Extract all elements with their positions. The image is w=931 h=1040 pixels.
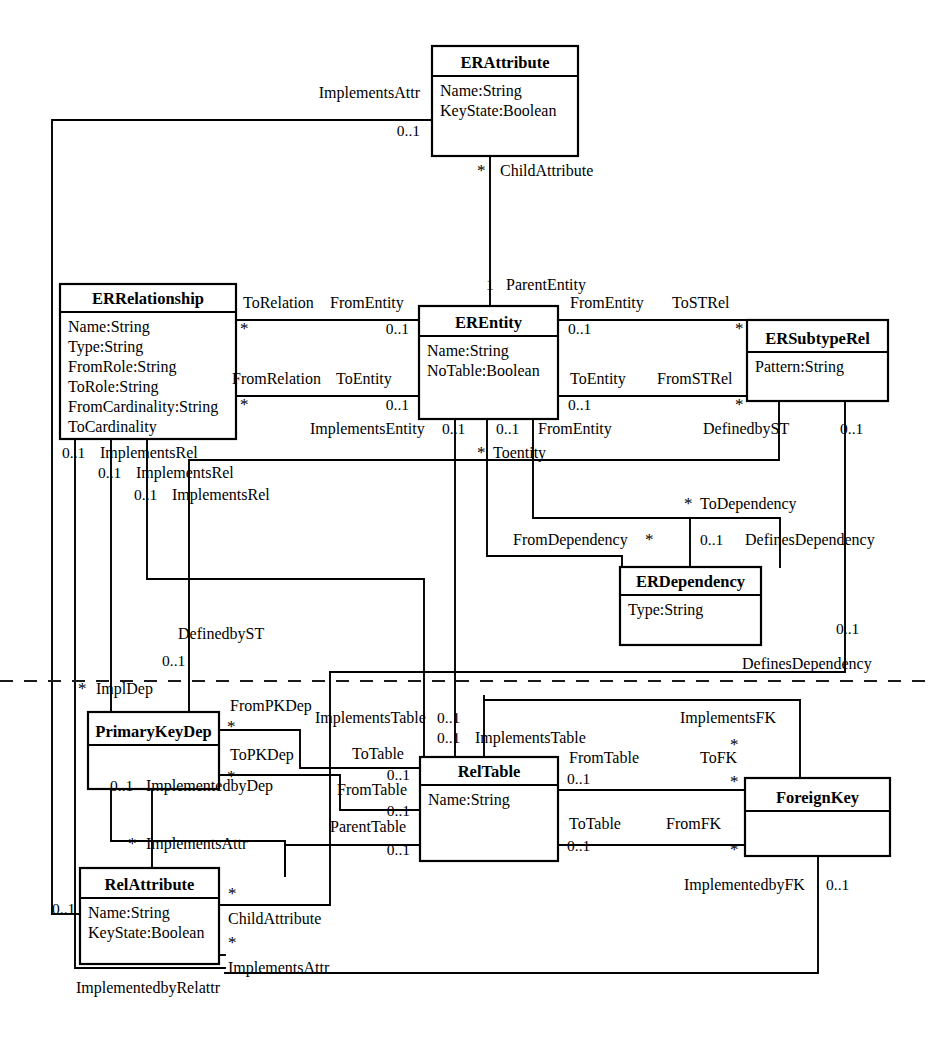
multiplicity-label-m-fromfk-star: * xyxy=(730,840,739,859)
role-label-fromrelation: FromRelation xyxy=(232,370,321,387)
role-label-fromentity-left: FromEntity xyxy=(330,294,404,312)
multiplicity-label-m-implementsattr-bot: * xyxy=(228,933,237,952)
multiplicity-label-m-topkdep-star: * xyxy=(227,767,236,786)
role-label-implementedbyfk: ImplementedbyFK xyxy=(684,876,805,894)
multiplicity-label-m-implementstable-2: 0..1 xyxy=(437,729,460,746)
role-label-implementsrel-3: ImplementsRel xyxy=(172,486,270,504)
class-attribute-label: Name:String xyxy=(428,791,510,809)
class-box-erattribute[interactable]: ERAttributeName:StringKeyState:Boolean xyxy=(432,46,578,156)
role-label-implementstable-2: ImplementsTable xyxy=(475,729,586,747)
class-attribute-label: KeyState:Boolean xyxy=(88,924,204,942)
multiplicity-label-m-childattr-bot-star: * xyxy=(228,884,237,903)
diagram-canvas: ERAttributeName:StringKeyState:BooleanER… xyxy=(0,0,931,1040)
multiplicity-label-m-definedbyst-left: 0..1 xyxy=(162,652,185,669)
multiplicity-label-m-parenttable: 0..1 xyxy=(387,841,410,858)
multiplicity-label-m-frompkdep-star: * xyxy=(227,717,236,736)
multiplicity-label-m-fromstrel-star: * xyxy=(735,395,744,414)
role-label-childattribute-bot: ChildAttribute xyxy=(228,910,321,927)
role-label-todependency: ToDependency xyxy=(700,495,797,513)
class-attribute-label: Type:String xyxy=(68,338,143,356)
multiplicity-label-m-implementstable-1: 0..1 xyxy=(437,709,460,726)
multiplicity-label-m-childattr-top-star: * xyxy=(477,161,486,180)
role-label-fromentity-mid: FromEntity xyxy=(538,420,612,438)
role-label-definesdependency-bot: DefinesDependency xyxy=(742,655,872,673)
role-label-parententity: ParentEntity xyxy=(506,276,586,294)
role-label-fromtable-left: FromTable xyxy=(337,781,407,798)
class-attribute-label: Name:String xyxy=(427,342,509,360)
multiplicity-label-m-tofk-star: * xyxy=(730,772,739,791)
multiplicity-label-m-fromentity-mid: 0..1 xyxy=(496,420,519,437)
role-label-topkdep: ToPKDep xyxy=(230,746,294,764)
multiplicity-label-m-fromtable-right: 0..1 xyxy=(567,770,590,787)
role-label-totable-lower: ToTable xyxy=(569,815,621,832)
class-attribute-label: FromCardinality:String xyxy=(68,398,218,416)
uml-class-diagram: ERAttributeName:StringKeyState:BooleanER… xyxy=(0,0,931,1040)
role-label-toentity-lower: Toentity xyxy=(493,444,546,462)
role-label-fromfk: FromFK xyxy=(666,815,722,832)
role-label-implementedbydep: ImplementedbyDep xyxy=(146,777,273,795)
multiplicity-label-m-tostrel-star: * xyxy=(735,319,744,338)
role-label-implementsattr-top: ImplementsAttr xyxy=(319,84,421,102)
multiplicity-label-m-relattr-left: 0..1 xyxy=(52,900,75,917)
class-name-label: ERDependency xyxy=(636,572,746,591)
role-label-parenttable: ParentTable xyxy=(330,818,406,835)
role-label-implementsattr-mid: ImplementsAttr xyxy=(146,835,248,853)
role-label-fromtable-right: FromTable xyxy=(569,749,639,766)
class-attribute-label: NoTable:Boolean xyxy=(427,362,540,379)
role-label-fromdependency: FromDependency xyxy=(513,531,628,549)
role-label-childattribute-top: ChildAttribute xyxy=(500,162,593,179)
class-attribute-label: FromRole:String xyxy=(68,358,176,376)
role-label-frompkdep: FromPKDep xyxy=(230,697,312,715)
class-box-erdependency[interactable]: ERDependencyType:String xyxy=(620,567,761,645)
class-attribute-label: Name:String xyxy=(88,904,170,922)
class-box-erentity[interactable]: EREntityName:StringNoTable:Boolean xyxy=(419,306,558,419)
role-label-definedbyst-right: DefinedbyST xyxy=(703,420,789,438)
multiplicity-label-m-implementsrel-2: 0..1 xyxy=(98,464,121,481)
multiplicity-label-m-impldep-star: * xyxy=(78,679,87,698)
class-attribute-label: Pattern:String xyxy=(755,358,844,376)
role-label-implementsrel-1: ImplementsRel xyxy=(100,444,198,462)
multiplicity-label-m-implementsentity: 0..1 xyxy=(442,420,465,437)
multiplicity-label-m-fromentity-left: 0..1 xyxy=(386,320,409,337)
class-attribute-label: Name:String xyxy=(440,82,522,100)
role-label-implementsfk: ImplementsFK xyxy=(680,709,776,727)
multiplicity-label-m-fromrelation-star: * xyxy=(240,395,249,414)
multiplicity-label-m-implementsrel-3: 0..1 xyxy=(134,486,157,503)
class-name-label: RelTable xyxy=(458,762,521,781)
class-box-foreignkey[interactable]: ForeignKey xyxy=(745,778,890,856)
multiplicity-label-m-torelation-star: * xyxy=(240,319,249,338)
multiplicity-label-m-definesdep-mid: 0..1 xyxy=(700,531,723,548)
multiplicity-label-m-parententity: 1 xyxy=(486,276,494,293)
multiplicity-label-m-todependency-star: * xyxy=(684,494,693,513)
class-name-label: PrimaryKeyDep xyxy=(95,722,211,741)
class-attribute-label: ToCardinality xyxy=(68,418,157,436)
class-box-reltable[interactable]: RelTableName:String xyxy=(420,757,558,861)
multiplicity-label-m-fromdependency-star: * xyxy=(645,530,654,549)
role-label-definedbyst-left: DefinedbyST xyxy=(178,625,264,643)
class-box-relattribute[interactable]: RelAttributeName:StringKeyState:Boolean xyxy=(80,868,219,964)
role-label-implementedbyrelattr: ImplementedbyRelattr xyxy=(76,979,221,997)
association-line xyxy=(111,439,285,876)
multiplicity-label-m-fromentity-right: 0..1 xyxy=(568,320,591,337)
role-label-totable-upper: ToTable xyxy=(352,745,404,762)
class-box-ersubtyperel[interactable]: ERSubtypeRelPattern:String xyxy=(747,320,888,401)
class-name-label: ERRelationship xyxy=(92,289,204,308)
multiplicity-label-m-implementsattr-top: 0..1 xyxy=(397,122,420,139)
multiplicity-label-m-definedbyst-right: 0..1 xyxy=(840,420,863,437)
role-label-implementstable-1: ImplementsTable xyxy=(315,709,426,727)
multiplicity-label-m-fromtable-left: 0..1 xyxy=(387,802,410,819)
class-attribute-label: Name:String xyxy=(68,318,150,336)
multiplicity-label-m-toentity-left: 0..1 xyxy=(386,396,409,413)
role-label-impldep: ImplDep xyxy=(96,680,153,698)
role-label-fromentity-right: FromEntity xyxy=(570,294,644,312)
multiplicity-label-m-totable-upper: 0..1 xyxy=(387,766,410,783)
multiplicity-label-m-toentity-right: 0..1 xyxy=(568,396,591,413)
multiplicity-label-m-definesdep-right: 0..1 xyxy=(836,620,859,637)
role-label-implementsentity: ImplementsEntity xyxy=(310,420,425,438)
class-attribute-label: ToRole:String xyxy=(68,378,158,396)
class-box-errelationship[interactable]: ERRelationshipName:StringType:StringFrom… xyxy=(60,284,236,439)
class-name-label: ERAttribute xyxy=(461,53,550,72)
role-label-implementsattr-bot: ImplementsAttr xyxy=(228,959,330,977)
class-name-label: ERSubtypeRel xyxy=(765,329,870,348)
role-label-toentity-left: ToEntity xyxy=(336,370,392,388)
